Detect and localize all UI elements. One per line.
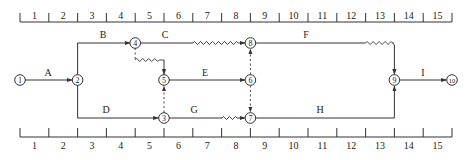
bottom-ruler-label: 14 bbox=[404, 140, 414, 151]
svg-text:A: A bbox=[44, 67, 52, 78]
top-ruler-label: 10 bbox=[289, 10, 299, 21]
top-ruler-label: 14 bbox=[404, 10, 414, 21]
svg-text:I: I bbox=[421, 67, 424, 78]
node-9: 9 bbox=[389, 75, 400, 86]
svg-text:10: 10 bbox=[449, 77, 456, 84]
bottom-time-ruler: 123456789101112131415 bbox=[20, 128, 452, 151]
top-ruler-label: 5 bbox=[147, 10, 152, 21]
activity-d: D bbox=[78, 85, 159, 118]
node-7: 7 bbox=[245, 113, 256, 124]
top-ruler-label: 15 bbox=[433, 10, 443, 21]
svg-text:1: 1 bbox=[18, 76, 22, 85]
node-5: 5 bbox=[159, 75, 170, 86]
activity-h: H bbox=[256, 86, 395, 118]
top-ruler-label: 6 bbox=[176, 10, 181, 21]
top-ruler-label: 7 bbox=[205, 10, 210, 21]
top-ruler-label: 13 bbox=[375, 10, 385, 21]
bottom-ruler-label: 4 bbox=[118, 140, 123, 151]
node-1: 1 bbox=[15, 75, 26, 86]
bottom-ruler-label: 3 bbox=[90, 140, 95, 151]
svg-text:8: 8 bbox=[248, 39, 252, 48]
svg-text:H: H bbox=[316, 104, 323, 115]
svg-text:2: 2 bbox=[76, 76, 80, 85]
bottom-ruler-label: 2 bbox=[61, 140, 66, 151]
svg-text:D: D bbox=[102, 104, 109, 115]
svg-text:5: 5 bbox=[162, 76, 166, 85]
svg-text:3: 3 bbox=[162, 114, 166, 123]
activity-e: E bbox=[169, 67, 245, 80]
bottom-ruler-label: 7 bbox=[205, 140, 210, 151]
bottom-ruler-label: 15 bbox=[433, 140, 443, 151]
bottom-ruler-label: 12 bbox=[346, 140, 356, 151]
svg-text:9: 9 bbox=[392, 76, 396, 85]
node-4: 4 bbox=[130, 38, 141, 49]
activity-i: I bbox=[400, 67, 447, 80]
top-ruler-label: 4 bbox=[118, 10, 123, 21]
top-ruler-label: 1 bbox=[32, 10, 37, 21]
node-10: 10 bbox=[447, 75, 458, 86]
svg-text:4: 4 bbox=[133, 39, 137, 48]
svg-text:B: B bbox=[100, 29, 107, 40]
free-float-wave-g bbox=[222, 117, 239, 120]
svg-text:G: G bbox=[190, 104, 197, 115]
node-8: 8 bbox=[245, 38, 256, 49]
top-ruler-label: 2 bbox=[61, 10, 66, 21]
top-ruler-label: 12 bbox=[346, 10, 356, 21]
network-diagram: 123456789101112131415 123456789101112131… bbox=[0, 0, 471, 160]
top-ruler-label: 3 bbox=[90, 10, 95, 21]
activity-a: A bbox=[25, 67, 72, 80]
top-time-ruler: 123456789101112131415 bbox=[20, 10, 452, 22]
node-6: 6 bbox=[245, 75, 256, 86]
bottom-ruler-label: 9 bbox=[262, 140, 267, 151]
bottom-ruler-label: 5 bbox=[147, 140, 152, 151]
top-ruler-label: 11 bbox=[318, 10, 328, 21]
top-ruler-label: 8 bbox=[234, 10, 239, 21]
node-2: 2 bbox=[72, 75, 83, 86]
svg-text:7: 7 bbox=[248, 114, 252, 123]
bottom-ruler-label: 10 bbox=[289, 140, 299, 151]
activity-b: B bbox=[78, 29, 130, 75]
activity-c: C bbox=[140, 29, 245, 45]
bottom-ruler-label: 1 bbox=[32, 140, 37, 151]
bottom-ruler-label: 11 bbox=[318, 140, 328, 151]
svg-text:C: C bbox=[162, 29, 169, 40]
bottom-ruler-label: 6 bbox=[176, 140, 181, 151]
svg-text:6: 6 bbox=[248, 76, 252, 85]
activity-g: G bbox=[169, 104, 245, 120]
free-float-wave-f bbox=[366, 42, 394, 45]
bottom-ruler-label: 8 bbox=[234, 140, 239, 151]
top-ruler-label: 9 bbox=[262, 10, 267, 21]
bottom-ruler-label: 13 bbox=[375, 140, 385, 151]
node-3: 3 bbox=[159, 113, 170, 124]
free-float-wave-c bbox=[193, 42, 240, 45]
dummy-4-5 bbox=[135, 48, 164, 75]
svg-text:F: F bbox=[303, 29, 309, 40]
svg-text:E: E bbox=[202, 67, 208, 78]
activity-f: F bbox=[256, 29, 395, 75]
